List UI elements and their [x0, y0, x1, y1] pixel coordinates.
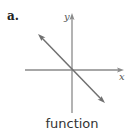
- coordinate-graph: y x: [0, 0, 128, 132]
- x-axis-label: x: [119, 71, 125, 82]
- graph-caption: function: [0, 116, 128, 131]
- y-axis-label: y: [63, 11, 70, 22]
